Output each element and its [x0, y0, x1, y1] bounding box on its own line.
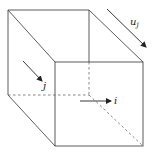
cube-diagram: uj j i — [0, 0, 156, 163]
depth-edges — [8, 10, 143, 146]
i-label: i — [114, 95, 117, 106]
u-j-label: uj — [130, 16, 139, 29]
i-vector: i — [80, 95, 117, 106]
j-vector: j — [23, 61, 46, 91]
hidden-edges — [8, 62, 143, 146]
u-j-vector: uj — [107, 9, 146, 47]
back-face — [8, 10, 89, 95]
j-label: j — [41, 80, 46, 91]
